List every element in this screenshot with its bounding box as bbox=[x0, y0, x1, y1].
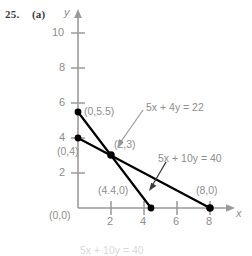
x-tick-label-2: 2 bbox=[107, 215, 113, 227]
x-tick-label-6: 6 bbox=[173, 215, 179, 227]
point-8-0 bbox=[206, 204, 214, 212]
y-tick-label-2: 2 bbox=[59, 166, 65, 178]
y-tick-label-8: 8 bbox=[59, 61, 65, 73]
y-tick-label-4: 4 bbox=[59, 131, 65, 143]
point-label-0-0: (0,0) bbox=[49, 209, 71, 221]
point-label-0-5-5: (0,5.5) bbox=[84, 105, 114, 117]
footer-cutoff-text: 5x + 10y = 40 bbox=[80, 244, 144, 256]
point-label-2-3: (2,3) bbox=[114, 138, 136, 150]
equation-label-line-1: 5x + 4y = 22 bbox=[146, 101, 204, 113]
point-4-4-0 bbox=[148, 205, 155, 212]
y-axis bbox=[74, 9, 82, 208]
y-axis-label: y bbox=[64, 6, 70, 18]
point-0-4 bbox=[75, 135, 82, 142]
x-tick-label-4: 4 bbox=[140, 215, 146, 227]
point-label-8-0: (8,0) bbox=[196, 184, 218, 196]
equation-label-line-2: 5x + 10y = 40 bbox=[158, 152, 222, 164]
x-tick-label-8: 8 bbox=[206, 215, 212, 227]
x-axis-label: x bbox=[236, 207, 242, 219]
point-0-5-5 bbox=[75, 109, 82, 116]
y-tick-label-6: 6 bbox=[59, 96, 65, 108]
y-tick-label-10: 10 bbox=[52, 26, 64, 38]
point-2-3 bbox=[107, 151, 115, 159]
point-label-4-4-0: (4.4,0) bbox=[98, 184, 128, 196]
point-label-0-4: (0,4) bbox=[57, 145, 79, 157]
